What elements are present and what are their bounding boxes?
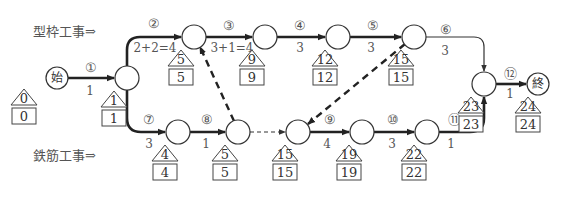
- node-5: [402, 25, 426, 49]
- latest-time-value: 24: [520, 117, 537, 132]
- activity-5-duration: 3: [367, 41, 375, 55]
- earliest-time-value: 15: [277, 147, 294, 162]
- activity-7-duration: 3: [145, 137, 153, 151]
- dummy-arrow-n8-to-n2: [200, 47, 234, 121]
- latest-time-value: 22: [406, 165, 423, 180]
- activity-9-duration: 4: [323, 137, 331, 151]
- node-8: [226, 120, 250, 144]
- earliest-time-value: 5: [221, 147, 229, 162]
- activity-6-duration: 3: [441, 44, 449, 58]
- node-end: 終: [527, 73, 549, 95]
- earliest-time-value: 19: [341, 147, 358, 162]
- activity-9-number: ⑨: [324, 112, 336, 127]
- earliest-time-value: 1: [110, 93, 118, 108]
- latest-time-value: 23: [463, 117, 480, 132]
- latest-time-value: 19: [341, 165, 358, 180]
- node-start-label: 始: [51, 71, 63, 85]
- earliest-time-value: 24: [520, 99, 537, 114]
- latest-time-value: 4: [161, 165, 169, 180]
- node-11: [415, 120, 439, 144]
- formwork-label: 型枠工事⇒: [33, 24, 96, 39]
- activity-12-duration: 1: [506, 87, 514, 101]
- latest-time-value: 5: [177, 70, 185, 85]
- activity-11-duration: 1: [447, 137, 455, 151]
- node-2: [182, 25, 206, 49]
- activity-8-number: ⑧: [201, 112, 213, 127]
- earliest-time-value: 23: [463, 99, 480, 114]
- earliest-time-value: 5: [177, 52, 185, 67]
- node-start: 始: [46, 67, 68, 89]
- node-12: [472, 72, 496, 96]
- latest-time-value: 0: [20, 109, 28, 124]
- activity-7-number: ⑦: [143, 112, 155, 127]
- node-3: [253, 25, 277, 49]
- node-end-label: 終: [532, 76, 544, 91]
- earliest-time-value: 0: [20, 91, 28, 106]
- node-7: [166, 120, 190, 144]
- activity-1-number: ①: [85, 60, 97, 75]
- earliest-time-value: 4: [161, 147, 169, 162]
- activity-3-number: ③: [223, 18, 235, 33]
- node-9: [286, 120, 310, 144]
- node-1: [115, 66, 139, 90]
- earliest-time-value: 22: [406, 147, 423, 162]
- arrow-diagram: 型枠工事⇒ 鉄筋工事⇒ ① ② ③ ④ ⑤ ⑥ ⑦ ⑧ ⑨ ⑩ ⑪ ⑫ 1 2+…: [0, 0, 580, 199]
- activity-10-duration: 3: [388, 137, 396, 151]
- activity-12-number: ⑫: [504, 66, 517, 81]
- activity-4-duration: 3: [296, 41, 304, 55]
- latest-time-value: 12: [317, 70, 334, 85]
- rebar-label: 鉄筋工事⇒: [33, 148, 96, 163]
- activity-10-number: ⑩: [387, 112, 399, 127]
- latest-time-value: 9: [248, 70, 256, 85]
- latest-time-value: 5: [221, 165, 229, 180]
- latest-time-value: 15: [393, 70, 410, 85]
- activity-4-number: ④: [294, 18, 306, 33]
- earliest-time-value: 15: [393, 52, 410, 67]
- activity-2-duration: 2+2=4: [133, 41, 176, 55]
- node-10: [350, 120, 374, 144]
- activity-5-number: ⑤: [367, 18, 379, 33]
- activity-6-arrow: [426, 37, 484, 71]
- earliest-time-value: 9: [248, 52, 256, 67]
- earliest-time-value: 12: [317, 52, 334, 67]
- latest-time-value: 15: [277, 165, 294, 180]
- latest-time-value: 1: [110, 111, 118, 126]
- activity-8-duration: 1: [202, 137, 210, 151]
- activity-6-number: ⑥: [440, 22, 452, 37]
- activity-2-number: ②: [148, 16, 160, 31]
- activity-1-duration: 1: [86, 84, 94, 98]
- node-4: [326, 25, 350, 49]
